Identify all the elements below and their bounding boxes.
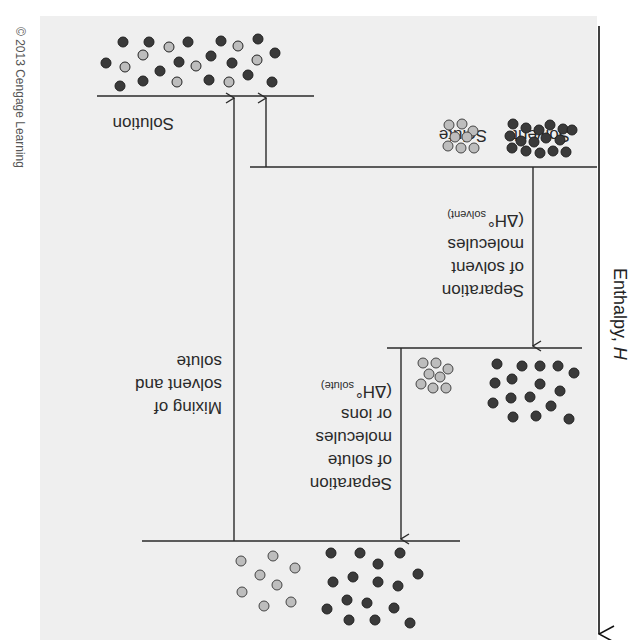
svg-text:solute: solute [177,352,222,371]
diagram-background [40,16,597,640]
svg-text:solvent and: solvent and [135,375,222,394]
svg-text:molecules: molecules [315,428,392,447]
svg-text:molecules: molecules [447,235,524,254]
svg-text:Mixing of: Mixing of [154,398,222,417]
copyright-text: © 2013 Cengage Learning [13,27,27,168]
diagram-canvas: Enthalpy, H © 2013 Cengage Learning Solu… [0,0,639,640]
svg-text:Separation: Separation [310,474,392,493]
enthalpy-axis-label: Enthalpy, H [610,268,630,361]
solution-label: Solution [113,114,174,133]
svg-text:Separation: Separation [442,281,524,300]
svg-text:of solute: of solute [328,451,392,470]
svg-text:or ions: or ions [341,405,392,424]
svg-text:of solvent: of solvent [451,258,524,277]
enthalpy-of-solution-diagram: Enthalpy, H © 2013 Cengage Learning Solu… [0,0,639,640]
